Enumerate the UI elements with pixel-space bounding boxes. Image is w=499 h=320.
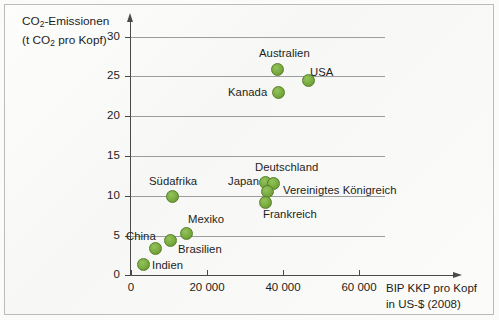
y-tick-mark-15	[125, 156, 131, 157]
point-label-suedafrika: Südafrika	[149, 175, 197, 187]
point-label-japan: Japan	[228, 175, 259, 187]
y-tick-label-5: 5	[114, 229, 121, 241]
point-label-vereinigtes-koenigreich: Vereinigtes Königreich	[283, 184, 397, 196]
gridline-20	[131, 116, 385, 117]
y-axis-title: CO2-Emissionen (t CO2 pro Kopf)	[22, 13, 109, 51]
y-axis-title-prokopf: pro Kopf)	[55, 33, 107, 47]
y-axis-title-line2: (t CO2 pro Kopf)	[22, 32, 109, 51]
x-axis-title-line1: BIP KKP pro Kopf	[386, 281, 477, 297]
data-point-brasilien[interactable]	[164, 234, 177, 247]
x-tick-label-20000: 20 000	[189, 281, 224, 293]
x-tick-mark-20000	[207, 270, 208, 275]
x-axis-arrow-icon	[453, 272, 462, 278]
x-tick-mark-0	[131, 270, 132, 275]
data-point-china[interactable]	[149, 242, 162, 255]
point-label-australien: Australien	[259, 47, 310, 59]
point-label-deutschland: Deutschland	[255, 161, 318, 173]
y-tick-mark-30	[125, 37, 131, 38]
gridline-15	[131, 156, 385, 157]
y-tick-mark-10	[125, 196, 131, 197]
x-tick-mark-40000	[283, 270, 284, 275]
point-label-kanada: Kanada	[228, 86, 267, 98]
y-axis-title-tco: (t CO	[22, 33, 50, 47]
y-axis-arrow-icon	[127, 13, 133, 22]
x-tick-mark-60000	[359, 270, 360, 275]
data-point-kanada[interactable]	[272, 86, 285, 99]
y-tick-label-15: 15	[107, 149, 120, 161]
x-axis-title-line2: in US-$ (2008)	[386, 297, 477, 313]
plot-area: 30 25 20 15 10 5 0 0 20 000 40 000 60 00…	[0, 0, 499, 320]
x-tick-label-40000: 40 000	[265, 281, 300, 293]
data-point-australien[interactable]	[271, 63, 284, 76]
gridline-25	[131, 76, 385, 77]
x-tick-label-60000: 60 000	[341, 281, 376, 293]
point-label-mexiko: Mexiko	[188, 213, 224, 225]
x-axis-title: BIP KKP pro Kopf in US-$ (2008)	[386, 281, 477, 312]
point-label-frankreich: Frankreich	[263, 208, 317, 220]
point-label-indien: Indien	[152, 259, 183, 271]
y-tick-label-10: 10	[107, 189, 120, 201]
data-point-mexiko[interactable]	[180, 227, 193, 240]
x-tick-label-0: 0	[128, 281, 134, 293]
gridline-30	[131, 37, 385, 38]
y-tick-label-25: 25	[107, 69, 120, 81]
point-label-brasilien: Brasilien	[178, 243, 222, 255]
y-tick-mark-25	[125, 76, 131, 77]
x-axis-line	[130, 275, 455, 276]
point-label-china: China	[126, 230, 156, 242]
y-tick-mark-20	[125, 116, 131, 117]
y-tick-label-20: 20	[107, 109, 120, 121]
data-point-suedafrika[interactable]	[166, 190, 179, 203]
y-tick-mark-0	[125, 275, 131, 276]
y-axis-title-co: CO	[22, 14, 40, 28]
data-point-indien[interactable]	[137, 258, 150, 271]
y-tick-label-0: 0	[114, 268, 121, 280]
chart-figure: 30 25 20 15 10 5 0 0 20 000 40 000 60 00…	[0, 0, 499, 320]
point-label-usa: USA	[310, 66, 333, 78]
y-axis-title-line1: CO2-Emissionen	[22, 13, 109, 32]
y-axis-title-emissionen: -Emissionen	[44, 14, 109, 28]
